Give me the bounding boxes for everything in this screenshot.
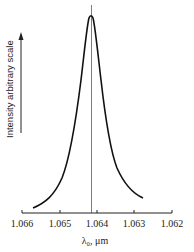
x-tick-label: 1.062 bbox=[161, 218, 184, 229]
plot-area bbox=[0, 0, 194, 252]
y-axis-label: Intensity arbitrary scale bbox=[4, 40, 15, 138]
x-tick-label: 1.063 bbox=[123, 218, 146, 229]
x-tick-label: 1.065 bbox=[49, 218, 72, 229]
x-tick-label: 1.064 bbox=[86, 218, 109, 229]
x-axis-label: λ₀, μm bbox=[82, 235, 108, 246]
spectral-line-curve bbox=[33, 16, 143, 208]
arrow-head-icon bbox=[19, 32, 24, 40]
x-tick-label: 1.066 bbox=[11, 218, 34, 229]
